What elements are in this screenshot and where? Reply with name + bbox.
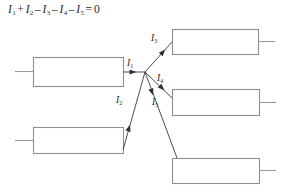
current-i1-label: I1	[127, 59, 133, 69]
box-bottom-left-body	[34, 128, 124, 154]
current-i2-subscript: 2	[119, 100, 122, 106]
current-i4-subscript: 4	[160, 78, 163, 84]
current-i3-label: I3	[151, 34, 157, 44]
box-top-right-body	[173, 30, 259, 55]
current-i2-arrowhead-icon	[126, 124, 133, 132]
current-i5-subscript: 5	[155, 102, 158, 108]
current-i1-subscript: 1	[130, 63, 133, 69]
current-i5-label: I5	[152, 98, 158, 108]
current-i5-arrowhead-icon	[148, 88, 155, 96]
current-i3-line	[145, 42, 172, 72]
current-i3-subscript: 3	[154, 38, 157, 44]
box-top-left-body	[34, 58, 124, 87]
box-bottom-right	[173, 159, 277, 184]
circuit-junction-figure: I1+I2–I3–I4–I5=0 I1I2I3I4I5	[0, 0, 285, 192]
box-top-right	[173, 30, 276, 55]
current-i2-label: I2	[116, 96, 122, 106]
current-i1-branch	[123, 69, 145, 74]
box-middle-right-body	[173, 90, 260, 116]
box-bottom-right-body	[173, 159, 260, 184]
current-i1-arrowhead-icon	[130, 69, 137, 74]
current-i3-branch	[145, 42, 172, 72]
current-i4-label: I4	[157, 74, 163, 84]
current-i2-branch	[123, 72, 145, 150]
diagram-canvas	[0, 0, 285, 192]
box-top-left	[15, 58, 124, 87]
current-i2-line	[123, 72, 145, 150]
box-bottom-left	[15, 128, 124, 154]
box-middle-right	[173, 90, 277, 116]
component-boxes-group	[15, 30, 276, 184]
